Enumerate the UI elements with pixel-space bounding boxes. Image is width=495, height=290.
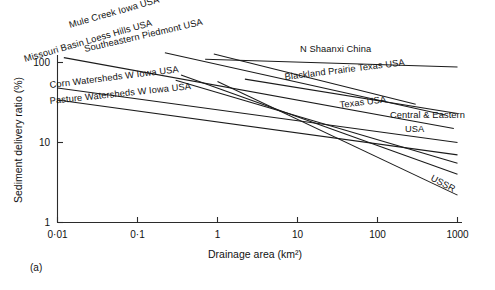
series-line-7 xyxy=(58,100,458,155)
y-tick-labels: 100 10 1 xyxy=(33,57,50,228)
y-tick-label-10: 10 xyxy=(39,137,51,148)
x-tick-label-100: 100 xyxy=(369,229,386,240)
series-label-6: Texas USA xyxy=(339,94,387,110)
y-tick-label-1: 1 xyxy=(44,217,50,228)
series-label-4: Blackland Prairie Texas USA xyxy=(284,57,406,82)
x-tick-labels: 0·01 0·1 1 10 100 1000 xyxy=(47,229,469,240)
x-tick-label-1000: 1000 xyxy=(446,229,469,240)
x-axis-title: Drainage area (km²) xyxy=(208,248,302,260)
sediment-delivery-ratio-chart: 100 10 1 0·01 0·1 1 10 100 1000 Drainage… xyxy=(0,0,495,290)
x-tick-label-1: 1 xyxy=(215,229,221,240)
series-label-0: N Shaanxi China xyxy=(300,44,372,54)
x-tick-label-0-1: 0·1 xyxy=(130,229,145,240)
figure-container: 100 10 1 0·01 0·1 1 10 100 1000 Drainage… xyxy=(0,0,495,290)
series-line-9 xyxy=(218,81,458,195)
x-tick-label-0-01: 0·01 xyxy=(47,229,67,240)
series-label-8: USA xyxy=(405,124,425,134)
x-tick-label-10: 10 xyxy=(292,229,304,240)
series-label-9: USSR xyxy=(429,173,457,194)
series-label-8: Central & Eastern xyxy=(390,110,465,120)
y-axis-title: Sediment delivery ratio (%) xyxy=(12,77,24,203)
figure-caption: (a) xyxy=(30,262,42,273)
